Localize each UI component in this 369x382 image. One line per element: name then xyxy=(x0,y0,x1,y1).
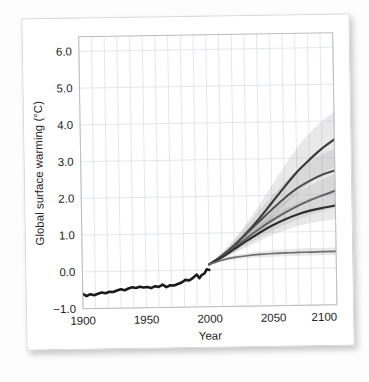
figure-card: 19001950200020502100 −1.00.01.02.03.04.0… xyxy=(21,13,354,350)
y-tick-label: −1.0 xyxy=(53,303,76,315)
x-tick-label: 2000 xyxy=(197,312,223,324)
y-tick-label: 6.0 xyxy=(56,46,72,58)
chart-container: 19001950200020502100 −1.00.01.02.03.04.0… xyxy=(22,14,353,349)
x-axis-title: Year xyxy=(199,329,223,341)
x-tick-label: 2100 xyxy=(311,311,337,323)
global-warming-chart: 19001950200020502100 −1.00.01.02.03.04.0… xyxy=(22,14,353,349)
y-tick-label: 3.0 xyxy=(58,156,74,168)
y-axis-title: Global surface warming (°C) xyxy=(32,101,46,246)
y-tick-label: 2.0 xyxy=(58,193,74,205)
y-tick-label: 1.0 xyxy=(59,229,75,241)
x-tick-label: 1950 xyxy=(134,313,160,325)
x-tick-label: 1900 xyxy=(70,314,96,326)
screenshot-stage: 19001950200020502100 −1.00.01.02.03.04.0… xyxy=(0,0,369,382)
y-tick-label: 4.0 xyxy=(57,119,73,131)
x-tick-label: 2050 xyxy=(261,311,287,323)
y-tick-label: 5.0 xyxy=(56,82,72,94)
y-tick-label: 0.0 xyxy=(59,266,75,278)
